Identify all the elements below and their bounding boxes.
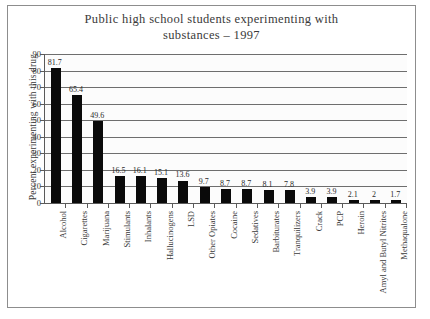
x-tick-mark [321, 204, 322, 208]
gridline [45, 87, 407, 88]
y-tick-label: 50 [17, 115, 41, 125]
x-tick-mark [87, 204, 88, 208]
x-axis-label: Alcohol [58, 209, 68, 319]
bar [115, 176, 125, 203]
x-tick-mark [406, 204, 407, 208]
bar [264, 190, 274, 203]
bar-value-label: 15.1 [154, 168, 168, 177]
bar-value-label: 65.4 [69, 85, 83, 94]
bar-value-label: 49.6 [90, 111, 104, 120]
x-tick-mark [150, 204, 151, 208]
x-axis-label: Sedatives [250, 209, 260, 319]
bar-value-label: 3.9 [326, 187, 336, 196]
bar [136, 176, 146, 203]
x-axis-label: Other Opiates [207, 209, 217, 319]
x-axis-label: Methaqualone [399, 209, 409, 319]
x-axis-label: Stimulants [122, 209, 132, 319]
x-axis-label: Crack [314, 209, 324, 319]
y-tick-label: 30 [17, 148, 41, 158]
x-axis-label: Inhalants [143, 209, 153, 319]
bar-value-label: 1.7 [390, 190, 400, 199]
x-axis-label: Heroin [356, 209, 366, 319]
chart-figure: Public high school students experimentin… [0, 0, 430, 319]
bar-value-label: 2 [372, 190, 376, 199]
y-tick-label: 70 [17, 82, 41, 92]
bar [200, 187, 210, 203]
bar [306, 197, 316, 203]
x-axis-label: Hallucinogens [165, 209, 175, 319]
x-axis-label: LSD [186, 209, 196, 319]
gridline [45, 54, 407, 55]
gridline [45, 104, 407, 105]
x-tick-mark [108, 204, 109, 208]
bar [285, 190, 295, 203]
bar-value-label: 2.1 [348, 190, 358, 199]
x-tick-mark [214, 204, 215, 208]
x-tick-mark [257, 204, 258, 208]
x-tick-mark [385, 204, 386, 208]
bar [349, 200, 359, 203]
bar [157, 178, 167, 203]
bar-value-label: 9.7 [199, 177, 209, 186]
y-tick-label: 0 [17, 198, 41, 208]
bar-value-label: 8.7 [220, 179, 230, 188]
x-tick-mark [236, 204, 237, 208]
x-tick-mark [342, 204, 343, 208]
bar [72, 95, 82, 203]
bar [391, 200, 401, 203]
x-tick-mark [300, 204, 301, 208]
x-axis-label: Tranquilizers [292, 209, 302, 319]
x-axis-label: Cocaine [229, 209, 239, 319]
bar [242, 189, 252, 203]
bar [370, 200, 380, 203]
y-tick-label: 20 [17, 165, 41, 175]
x-axis-label: Cigarettes [79, 209, 89, 319]
bar-value-label: 8.7 [241, 179, 251, 188]
y-tick-label: 10 [17, 181, 41, 191]
x-axis-label: Barbiturates [271, 209, 281, 319]
x-tick-mark [129, 204, 130, 208]
bar [327, 197, 337, 203]
bar-value-label: 16.5 [112, 166, 126, 175]
bar-value-label: 81.7 [48, 58, 62, 67]
x-axis-label: Amyl and Butyl Nitrites [378, 209, 388, 319]
y-tick-label: 60 [17, 99, 41, 109]
y-tick-label: 90 [17, 49, 41, 59]
bar-value-label: 3.9 [305, 187, 315, 196]
y-tick-label: 40 [17, 132, 41, 142]
bar [93, 121, 103, 203]
x-axis-label: PCP [335, 209, 345, 319]
bar-value-label: 13.6 [175, 170, 189, 179]
x-tick-mark [363, 204, 364, 208]
bar [221, 189, 231, 203]
x-tick-mark [193, 204, 194, 208]
y-tick-label: 80 [17, 66, 41, 76]
x-tick-mark [65, 204, 66, 208]
x-tick-mark [172, 204, 173, 208]
x-axis-label: Marijuana [101, 209, 111, 319]
gridline [45, 71, 407, 72]
bar-value-label: 7.8 [284, 180, 294, 189]
bar-value-label: 16.1 [133, 166, 147, 175]
bar [178, 181, 188, 204]
bar [51, 68, 61, 203]
x-tick-mark [278, 204, 279, 208]
chart-title: Public high school students experimentin… [7, 11, 416, 43]
bar-value-label: 8.1 [263, 180, 273, 189]
